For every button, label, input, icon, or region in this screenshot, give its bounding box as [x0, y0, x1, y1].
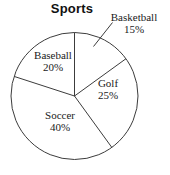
slice-label-baseball-percent: 20% [22, 62, 84, 74]
slice-label-soccer: Soccer 40% [30, 110, 90, 133]
slice-label-baseball: Baseball 20% [22, 50, 84, 73]
slice-label-soccer-name: Soccer [45, 109, 75, 121]
slice-label-golf: Golf 25% [86, 78, 130, 101]
slice-label-soccer-percent: 40% [30, 122, 90, 134]
slice-label-golf-percent: 25% [86, 90, 130, 102]
slice-label-basketball-percent: 15% [98, 24, 170, 36]
slice-label-basketball-name: Basketball [111, 11, 157, 23]
slice-label-golf-name: Golf [98, 77, 118, 89]
slice-label-baseball-name: Baseball [34, 49, 72, 61]
pie-chart-figure: Sports Basketball 15% Golf 25% Soccer 40… [0, 0, 170, 175]
slice-label-basketball: Basketball 15% [98, 12, 170, 35]
